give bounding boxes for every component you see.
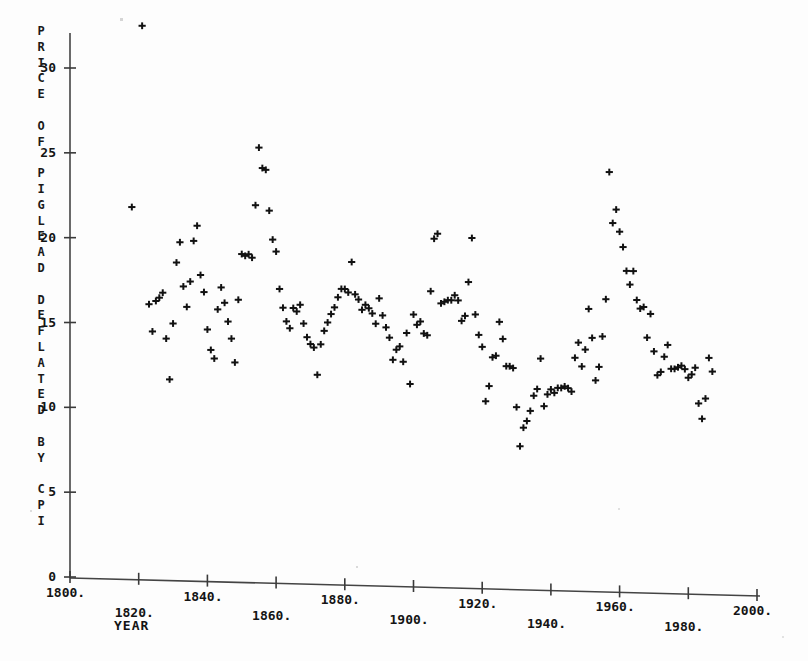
data-point-marker [231,359,238,366]
data-point-marker [472,311,479,318]
data-point-marker [327,311,334,318]
x-tick-label: 1920. [458,596,497,611]
data-point-marker [286,325,293,332]
data-point-marker [221,299,228,306]
data-point-marker [176,239,183,246]
y-axis-title-char: I [37,182,44,198]
data-point-marker [534,386,541,393]
data-point-marker [372,320,379,327]
data-point-marker [334,294,341,301]
data-point-marker [200,289,207,296]
y-axis-title-char: A [37,356,44,372]
y-tick-label: 30 [28,60,56,75]
y-axis-title-char: R [37,40,44,56]
data-point-marker [379,312,386,319]
data-point-marker [386,334,393,341]
data-point-marker [303,334,310,341]
data-point-marker [664,342,671,349]
data-point-marker [183,303,190,310]
data-point-marker [585,306,592,313]
data-point-marker [389,356,396,363]
y-axis-title-char: I [37,514,44,530]
data-point-marker [482,398,489,405]
y-axis-title-char: B [37,435,44,451]
data-point-marker [578,363,585,370]
x-tick-label: 1960. [596,599,635,614]
y-axis-title: PRICE OF PIGLEAD DEFLATED BY CPI [33,24,49,530]
data-point-marker [626,281,633,288]
data-point-marker [692,364,699,371]
data-point-marker [211,355,218,362]
data-point-marker [269,236,276,243]
data-point-marker [283,318,290,325]
data-point-marker [169,320,176,327]
data-point-marker [695,400,702,407]
y-axis-title-char: Y [37,451,44,467]
y-axis-title-char: D [37,261,44,277]
plot-axes [0,0,808,661]
y-axis-title-char: D [37,293,44,309]
x-axis-title: YEAR [114,618,149,633]
data-point-marker [207,347,214,354]
data-point-marker [324,319,331,326]
y-tick-label: 10 [28,399,56,414]
data-point-marker [613,206,620,213]
x-tick-label: 1880. [321,592,360,607]
data-point-marker [527,408,534,415]
y-tick-label: 25 [28,145,56,160]
data-point-marker [276,286,283,293]
data-point-marker [139,22,146,29]
data-point-marker [197,272,204,279]
data-point-marker [499,336,506,343]
y-axis-title-char [37,277,44,293]
data-point-marker [145,301,152,308]
data-point-marker [180,283,187,290]
data-point-marker [406,381,413,388]
x-tick-label: 1860. [252,608,291,623]
data-point-marker [314,371,321,378]
y-tick-label: 20 [28,230,56,245]
data-point-marker [619,244,626,251]
data-point-marker [235,296,242,303]
data-point-marker [173,259,180,266]
y-tick-label: 5 [28,484,56,499]
data-point-marker [348,259,355,266]
scan-speck [120,18,123,21]
data-point-marker [376,295,383,302]
data-point-marker [647,311,654,318]
y-axis-title-char [37,466,44,482]
data-point-marker [623,268,630,275]
data-point-marker [410,311,417,318]
data-point-marker [516,443,523,450]
data-point-marker [633,297,640,304]
data-point-marker [582,346,589,353]
data-point-marker [513,404,520,411]
data-point-marker [479,343,486,350]
data-point-marker [317,341,324,348]
data-point-marker [273,248,280,255]
data-point-marker [252,202,259,209]
data-point-marker [403,330,410,337]
data-point-marker [650,348,657,355]
data-point-marker [496,318,503,325]
data-point-marker [382,324,389,331]
data-point-marker [224,318,231,325]
data-point-marker [279,304,286,311]
data-point-marker [166,376,173,383]
y-axis-title-char: L [37,214,44,230]
data-point-marker [592,377,599,384]
y-axis-title-char: P [37,166,44,182]
data-point-marker [218,284,225,291]
data-markers [128,22,716,449]
data-point-marker [475,332,482,339]
data-point-marker [602,296,609,303]
scan-speck [618,508,620,510]
y-axis-title-char [37,419,44,435]
data-point-marker [255,144,262,151]
data-point-marker [616,228,623,235]
data-point-marker [297,301,304,308]
x-tick-label: 1840. [183,589,222,604]
data-point-marker [400,358,407,365]
data-point-marker [331,304,338,311]
scan-speck [30,510,32,512]
